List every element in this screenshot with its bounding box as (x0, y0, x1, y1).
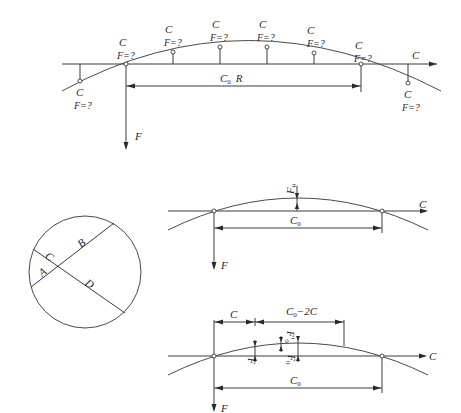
bottom-local-label: F (246, 357, 257, 365)
bottom-baseline-arrowhead-icon (419, 354, 427, 359)
top-p4-force: F=? (209, 32, 228, 43)
top-baseline-arrowhead-icon (429, 62, 437, 67)
middle-dim-left-arrowhead-icon (215, 226, 223, 231)
top-point-6 (312, 51, 316, 55)
top-p2-label: C (119, 36, 127, 48)
bottom-local-sag-down-icon (253, 341, 257, 346)
top-force-arrowhead-icon (124, 142, 129, 150)
middle-force-label: F (220, 259, 228, 271)
top-p5-label: C (259, 18, 267, 30)
top-force-label: F (134, 130, 142, 142)
top-p3-force: F=? (163, 37, 182, 48)
bottom-sag-prime-up-icon (279, 346, 283, 351)
top-p1-force: F=? (73, 100, 92, 111)
bottom-inner-span-label: C0−2C (286, 305, 318, 319)
top-dim-left-arrowhead-icon (127, 84, 135, 89)
bottom-inner-dim-right-arrowhead-icon (335, 320, 343, 325)
bottom-direction-label: C (429, 350, 437, 362)
bottom-left-point (212, 354, 216, 358)
top-direction-label: C (412, 49, 420, 61)
top-arc (62, 41, 441, 92)
top-p7-label: C (355, 39, 363, 51)
chord-sag-diagram: C F=? C F=? C F=? C F=? C F=? C F=? C F=… (0, 0, 461, 413)
middle-figure: F0 C0 C F (168, 183, 428, 271)
top-p6-force: F=? (306, 38, 325, 49)
bottom-offset-dim-left-arrowhead-icon (215, 320, 223, 325)
circle-label-c: C (43, 249, 56, 263)
bottom-figure: C C0−2C F′0 F0 F C0 C F (168, 305, 437, 413)
bottom-sag-prime-label: F′0 (283, 330, 296, 343)
bottom-force-arrowhead-icon (212, 404, 217, 412)
top-p7-force: F=? (353, 53, 372, 64)
bottom-offset-label: C (230, 308, 238, 320)
middle-direction-label: C (419, 198, 427, 210)
top-p6-label: C (307, 24, 315, 36)
top-point-5 (265, 45, 269, 49)
middle-right-point (380, 209, 384, 213)
bottom-right-point (380, 354, 384, 358)
bottom-offset-dim-right-arrowhead-icon (246, 320, 254, 325)
middle-dim-right-arrowhead-icon (373, 226, 381, 231)
top-p8-force: F=? (401, 102, 420, 113)
top-p1-label: C (76, 86, 84, 98)
top-point-8 (406, 81, 410, 85)
top-point-3 (171, 50, 175, 54)
top-p3-label: C (165, 23, 173, 35)
middle-left-point (212, 209, 216, 213)
bottom-force-label: F (220, 402, 228, 413)
circle-label-d: D (82, 276, 96, 291)
bottom-dim-right-arrowhead-icon (373, 386, 381, 391)
top-point-1 (78, 79, 82, 83)
top-dim-right-arrowhead-icon (352, 84, 360, 89)
top-p4-label: C (212, 18, 220, 30)
top-p2-force: F=? (116, 50, 135, 61)
middle-sag-label: F0 (284, 183, 298, 195)
top-figure: C F=? C F=? C F=? C F=? C F=? C F=? C F=… (62, 18, 441, 150)
bottom-dim-left-arrowhead-icon (215, 386, 223, 391)
top-point-4 (218, 45, 222, 49)
circle-figure: A B C D (29, 216, 141, 328)
top-p5-force: F=? (256, 32, 275, 43)
top-point-2 (124, 62, 128, 66)
middle-force-arrowhead-icon (212, 262, 217, 270)
middle-chord-label: C0 (290, 214, 301, 228)
middle-sag-arrow-up-icon (295, 203, 299, 209)
top-chord-label: C0R (220, 72, 243, 86)
top-p8-label: C (404, 88, 412, 100)
circle-label-a: A (35, 265, 49, 279)
bottom-chord-label: C0 (290, 374, 301, 388)
bottom-inner-dim-left-arrowhead-icon (256, 320, 264, 325)
bottom-sag-prime-down-icon (279, 337, 283, 342)
circle-label-b: B (75, 236, 88, 250)
